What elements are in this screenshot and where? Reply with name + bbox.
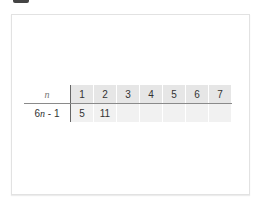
formula-label: 6n - 1 [24,104,71,122]
col-5: 5 [163,85,185,103]
value-4-input[interactable] [141,106,161,120]
col-7: 7 [209,85,231,103]
value-row: 6n - 1 5 11 [24,104,232,122]
col-2: 2 [94,85,116,103]
header-row: n 1 2 3 4 5 6 7 [24,85,232,104]
value-2: 11 [94,104,116,122]
col-4: 4 [140,85,162,103]
value-7-input-cell[interactable] [209,104,231,122]
value-5-input-cell[interactable] [163,104,185,122]
col-1: 1 [71,85,93,103]
n-label: n [24,85,71,103]
top-tab-handle [13,0,29,3]
formula-constant: - 1 [45,108,59,119]
value-6-input[interactable] [187,106,207,120]
value-3-input-cell[interactable] [117,104,139,122]
value-7-input[interactable] [210,106,230,120]
value-6-input-cell[interactable] [186,104,208,122]
value-4-input-cell[interactable] [140,104,162,122]
col-3: 3 [117,85,139,103]
value-3-input[interactable] [118,106,138,120]
col-6: 6 [186,85,208,103]
value-5-input[interactable] [164,106,184,120]
value-1: 5 [71,104,93,122]
sequence-table: n 1 2 3 4 5 6 7 6n - 1 5 11 [24,85,232,122]
